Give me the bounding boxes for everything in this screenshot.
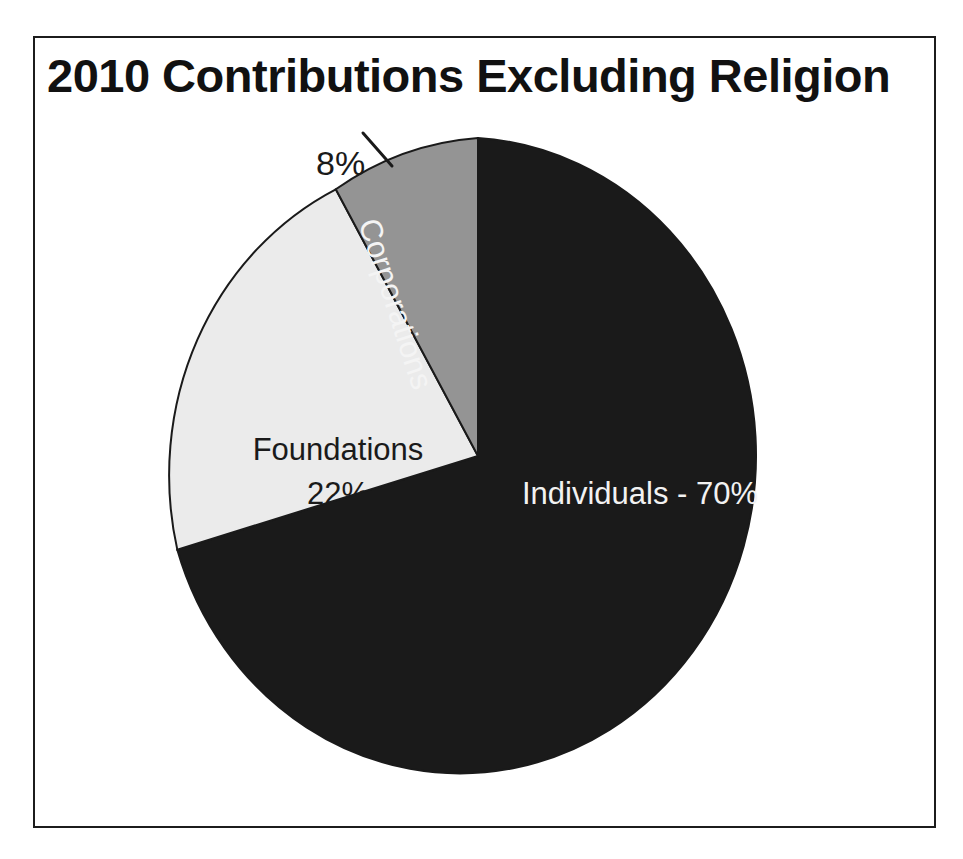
pie-chart-svg [33,36,936,828]
chart-page: 2010 Contributions Excluding Religion 8%… [0,0,963,859]
slice-label-foundations-group: Foundations 22% [238,428,438,516]
slice-label-individuals: Individuals - 70% [522,476,758,512]
slice-label-foundations-name: Foundations [238,428,438,472]
pie-chart: 8% Corporations Foundations 22% Individu… [33,36,936,828]
callout-leader-line [363,133,392,166]
slice-label-foundations-percent: 22% [238,472,438,516]
slice-label-corporations-percent: 8% [316,144,365,183]
